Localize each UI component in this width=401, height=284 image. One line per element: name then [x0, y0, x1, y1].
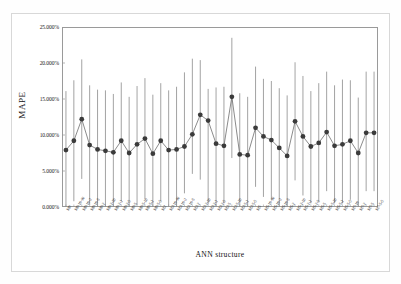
error-bars: [66, 38, 374, 207]
data-point: [277, 146, 282, 151]
data-point: [324, 130, 329, 135]
chart-figure: 0.000%5.000%10.000%15.000%20.000%25.000%…: [0, 0, 401, 284]
data-point: [356, 151, 361, 156]
data-point: [229, 94, 234, 99]
data-point: [285, 153, 290, 158]
y-tick-label: 10.000%: [40, 132, 59, 138]
data-point: [198, 112, 203, 117]
data-point: [253, 125, 258, 130]
data-point-markers: [64, 94, 377, 158]
data-point: [237, 152, 242, 157]
data-point: [95, 147, 100, 152]
data-point: [182, 144, 187, 149]
data-point: [308, 144, 313, 149]
data-point: [158, 138, 163, 143]
data-point: [127, 151, 132, 156]
data-point: [174, 147, 179, 152]
data-point: [316, 141, 321, 146]
data-point: [119, 138, 124, 143]
x-axis-title: ANN structure: [62, 250, 378, 259]
data-point: [269, 138, 274, 143]
y-tick-label: 20.000%: [40, 60, 59, 66]
data-point: [166, 148, 171, 153]
data-point: [150, 151, 155, 156]
series-line: [66, 97, 374, 156]
data-point: [332, 143, 337, 148]
y-tick-label: 25.000%: [40, 24, 59, 30]
data-point: [111, 150, 116, 155]
data-point: [261, 134, 266, 139]
data-point: [190, 132, 195, 137]
data-point: [372, 130, 377, 135]
data-point: [135, 142, 140, 147]
y-tick-label: 5.000%: [42, 168, 59, 174]
y-tick-label: 0.000%: [42, 204, 59, 210]
data-point: [103, 148, 108, 153]
data-point: [143, 136, 148, 141]
data-point: [340, 142, 345, 147]
data-point: [293, 119, 298, 124]
x-axis-tick-labels: M0M0-10-10M0-10-2M0-10-5M0-2M0-2-10M0-2-…: [62, 209, 378, 251]
data-point: [364, 130, 369, 135]
y-axis-title: MAPE: [17, 75, 27, 135]
x-tick-label: M5: [255, 204, 262, 211]
data-point: [79, 117, 84, 122]
x-tick-label: M0: [65, 204, 72, 211]
data-point: [64, 148, 69, 153]
data-point: [71, 138, 76, 143]
x-tick-label: M2: [160, 204, 167, 211]
data-point: [87, 143, 92, 148]
data-point: [348, 138, 353, 143]
data-point: [245, 153, 250, 158]
data-point: [214, 141, 219, 146]
data-point: [301, 134, 306, 139]
plot-canvas: [62, 27, 378, 207]
y-tick-label: 15.000%: [40, 96, 59, 102]
y-axis-tick-labels: 0.000%5.000%10.000%15.000%20.000%25.000%: [0, 27, 59, 207]
data-point: [222, 143, 227, 148]
data-point: [206, 118, 211, 123]
